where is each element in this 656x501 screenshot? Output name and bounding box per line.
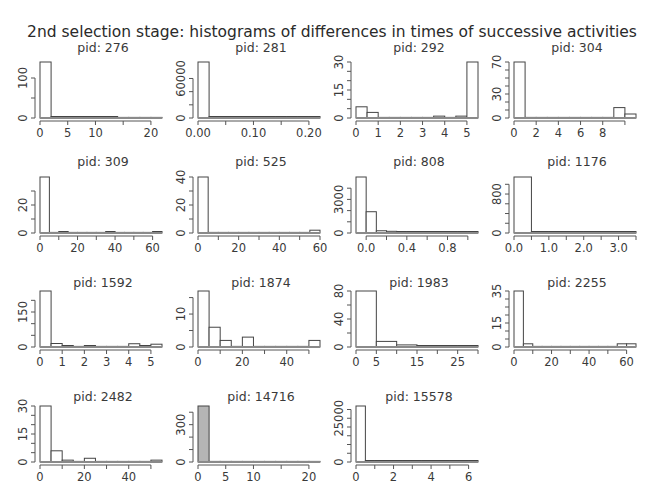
- histogram-panel: pid: 29201234501530: [332, 40, 478, 140]
- y-tick-label: 30: [332, 55, 346, 70]
- x-tick-label: 3: [103, 355, 110, 369]
- x-tick-label: 0: [36, 126, 43, 140]
- x-tick-label: 2: [533, 126, 540, 140]
- x-tick-label: 0.0: [357, 241, 375, 255]
- x-tick-label: 0: [194, 241, 201, 255]
- x-tick-label: 60: [619, 355, 634, 369]
- x-tick-label: 5: [373, 355, 380, 369]
- panel-title: pid: 15578: [385, 389, 452, 404]
- histogram-panel: pid: 187402040010: [174, 275, 320, 369]
- x-tick-label: 2: [81, 355, 88, 369]
- x-tick-label: 2: [397, 126, 404, 140]
- histogram-bar: [209, 327, 220, 347]
- panel-title: pid: 309: [77, 154, 128, 169]
- histogram-bar: [356, 406, 365, 462]
- panel-title: pid: 2482: [73, 389, 132, 404]
- histogram-bar: [40, 291, 51, 347]
- x-tick-label: 20: [144, 126, 159, 140]
- y-tick-label: 0: [16, 229, 30, 236]
- y-tick-label: 10: [174, 307, 188, 322]
- x-tick-label: 4: [125, 355, 132, 369]
- y-tick-label: 40: [332, 312, 346, 327]
- x-tick-label: 0: [36, 355, 43, 369]
- histogram-panel: pid: 24820204001530: [16, 389, 162, 484]
- y-tick-label: 0: [490, 229, 504, 236]
- x-tick-label: 4: [555, 126, 562, 140]
- x-tick-label: 40: [272, 241, 287, 255]
- y-tick-label: 30: [490, 87, 504, 102]
- y-tick-label: 100: [16, 67, 30, 89]
- histogram-panel: pid: 198305152504080: [332, 275, 478, 369]
- y-tick-label: 0: [174, 458, 188, 465]
- y-tick-label: 0: [332, 229, 346, 236]
- y-tick-label: 0: [332, 343, 346, 350]
- x-tick-label: 20: [70, 241, 85, 255]
- histogram-panel: pid: 3040246803070: [490, 40, 636, 140]
- histogram-bar: [198, 291, 209, 347]
- y-tick-label: 300: [174, 414, 188, 436]
- x-tick-label: 5: [222, 470, 229, 484]
- histogram-panel: pid: 147160510200300: [174, 389, 320, 484]
- y-tick-label: 0: [16, 114, 30, 121]
- x-tick-label: 40: [582, 355, 597, 369]
- y-tick-label: 60000: [174, 60, 188, 97]
- x-tick-label: 0.0: [505, 241, 523, 255]
- x-tick-label: 4: [427, 470, 434, 484]
- x-tick-label: 6: [577, 126, 584, 140]
- panel-title: pid: 281: [235, 40, 286, 55]
- histogram-bar: [242, 337, 253, 347]
- y-tick-label: 0: [16, 343, 30, 350]
- x-tick-label: 5: [147, 355, 154, 369]
- x-tick-label: 5: [64, 126, 71, 140]
- y-tick-label: 30: [16, 399, 30, 414]
- y-tick-label: 3000: [332, 185, 346, 214]
- histogram-bar: [40, 406, 51, 462]
- histogram-bar: [40, 62, 51, 118]
- x-tick-label: 20: [235, 355, 250, 369]
- y-tick-label: 0: [16, 458, 30, 465]
- y-tick-label: 25000: [332, 400, 346, 437]
- panel-title: pid: 14716: [227, 389, 294, 404]
- panel-title: pid: 276: [77, 40, 128, 55]
- histogram-bar: [614, 108, 625, 118]
- histogram-panel: pid: 8080.00.40.803000: [332, 154, 478, 255]
- histogram-bar: [356, 291, 376, 347]
- x-tick-label: 0: [352, 126, 359, 140]
- histogram-bar: [198, 62, 209, 118]
- x-tick-label: 0: [36, 241, 43, 255]
- histogram-bar: [514, 177, 531, 233]
- y-tick-label: 0: [174, 114, 188, 121]
- y-tick-label: 0: [174, 229, 188, 236]
- y-tick-label: 35: [490, 284, 504, 299]
- y-tick-label: 800: [490, 183, 504, 205]
- x-tick-label: 0.4: [398, 241, 416, 255]
- histogram-bar: [356, 107, 367, 118]
- x-tick-label: 60: [145, 241, 160, 255]
- x-tick-label: 20: [77, 470, 92, 484]
- x-tick-label: 4: [441, 126, 448, 140]
- x-tick-label: 0: [194, 470, 201, 484]
- histogram-bar: [198, 177, 208, 233]
- y-tick-label: 20: [174, 198, 188, 213]
- histogram-panel: pid: 3090204060020: [16, 154, 162, 255]
- x-tick-label: 0.20: [296, 126, 322, 140]
- x-tick-label: 20: [544, 355, 559, 369]
- figure-title: 2nd selection stage: histograms of diffe…: [27, 23, 637, 41]
- histogram-bar: [366, 212, 376, 233]
- panel-title: pid: 292: [393, 40, 444, 55]
- x-tick-label: 0.8: [438, 241, 456, 255]
- x-tick-label: 25: [450, 355, 465, 369]
- histogram-bar: [198, 406, 209, 462]
- y-tick-label: 0: [174, 343, 188, 350]
- y-tick-label: 70: [490, 55, 504, 70]
- histogram-panel: pid: 11760.01.02.03.00800: [490, 154, 636, 255]
- panel-title: pid: 1592: [73, 275, 132, 290]
- panel-title: pid: 1176: [547, 154, 606, 169]
- histogram-bar: [356, 177, 366, 233]
- x-tick-label: 0: [36, 470, 43, 484]
- histogram-panel: pid: 2760510200100: [16, 40, 162, 140]
- y-tick-label: 80: [332, 284, 346, 299]
- y-tick-label: 15: [16, 427, 30, 442]
- panel-title: pid: 304: [551, 40, 602, 55]
- histogram-panel: pid: 2810.000.100.20060000: [174, 40, 322, 140]
